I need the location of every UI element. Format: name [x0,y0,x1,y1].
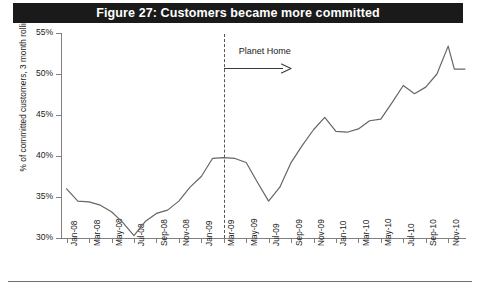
x-axis-tick-label: Sep-10 [429,219,437,246]
x-axis-tick [67,238,68,243]
x-axis-tick [269,238,270,243]
y-axis-tick-label: 50% [25,69,53,78]
x-axis-tick [89,238,90,243]
y-axis-line [61,33,62,239]
x-axis-tick [112,238,113,243]
x-axis-tick [246,238,247,243]
planet-home-arrow-shaft [224,68,283,69]
x-axis-tick-label: Mar-10 [362,220,370,246]
x-axis-tick-label: Mar-08 [93,220,101,246]
x-axis-tick-label: Jul-09 [272,223,280,246]
x-axis-tick-label: Mar-09 [227,220,235,246]
x-axis-tick [448,238,449,243]
x-axis-tick [358,238,359,243]
x-axis-tick-label: Jul-10 [407,223,415,246]
y-axis-tick-label: 40% [25,151,53,160]
y-axis-tick [56,33,61,34]
x-axis-tick-label: May-09 [250,218,258,246]
figure-title: Figure 27: Customers became more committ… [96,6,379,20]
x-axis-tick-label: Jul-08 [137,223,145,246]
x-axis-tick-label: Sep-08 [160,219,168,246]
y-axis-tick-label: 45% [25,110,53,119]
x-axis-tick-label: Sep-09 [295,219,303,246]
arrow-right-icon [281,63,292,74]
y-axis-tick [56,156,61,157]
x-axis-tick [314,238,315,243]
x-axis-tick-label: May-10 [384,218,392,246]
x-axis-tick-label: Nov-08 [182,219,190,246]
x-axis-tick [224,238,225,243]
y-axis-tick-label: 55% [25,28,53,37]
x-axis-tick-label: May-08 [115,218,123,246]
data-series-layer [0,0,480,291]
y-axis-tick-label: 30% [25,233,53,242]
x-axis-tick-label: Nov-09 [317,219,325,246]
x-axis-tick [179,238,180,243]
x-axis-tick-label: Jan-08 [70,221,78,246]
x-axis-tick [336,238,337,243]
y-axis-tick [56,197,61,198]
figure-title-bar: Figure 27: Customers became more committ… [13,3,463,23]
x-axis-tick [403,238,404,243]
planet-home-annotation-label: Planet Home [239,46,291,56]
figure-container: Figure 27: Customers became more committ… [0,0,480,291]
x-axis-tick [201,238,202,243]
series-line-committed-customers [67,46,465,235]
y-axis-tick [56,238,61,239]
y-axis-tick [56,74,61,75]
x-axis-tick-label: Jan-10 [339,221,347,246]
x-axis-tick [134,238,135,243]
x-axis-tick-label: Jan-09 [205,221,213,246]
planet-home-event-line [224,34,225,238]
y-axis-tick [56,115,61,116]
y-axis-tick-label: 35% [25,192,53,201]
footer-divider [8,281,472,282]
x-axis-tick [381,238,382,243]
x-axis-tick [426,238,427,243]
x-axis-tick [291,238,292,243]
x-axis-tick-label: Nov-10 [452,219,460,246]
x-axis-tick [156,238,157,243]
